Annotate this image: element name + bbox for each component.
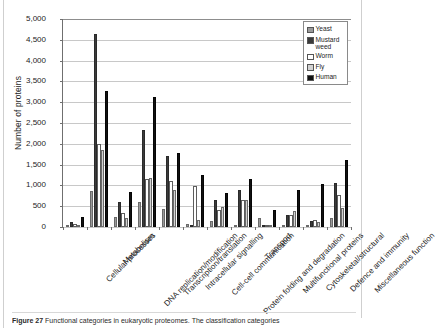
- legend-label: Fly: [316, 63, 325, 70]
- bar: [94, 34, 97, 227]
- bar: [334, 183, 337, 227]
- bar: [105, 91, 108, 227]
- bar: [273, 210, 276, 227]
- legend-swatch: [307, 54, 314, 61]
- legend-label: Mustard weed: [316, 36, 346, 50]
- bar: [286, 215, 289, 227]
- y-axis-tick-label: 1,500: [0, 160, 46, 169]
- y-axis-tick-label: 4,000: [0, 56, 46, 65]
- bar: [341, 208, 344, 227]
- bar: [306, 225, 309, 227]
- x-axis-tick-mark: [207, 227, 208, 230]
- bar: [245, 200, 248, 227]
- bar: [330, 218, 333, 227]
- x-axis-category-label: Metabolism: [121, 231, 156, 266]
- x-axis-tick-mark: [135, 227, 136, 230]
- x-axis-tick-mark: [87, 227, 88, 230]
- bar-group: [159, 19, 183, 227]
- bar: [169, 181, 172, 227]
- bar: [190, 225, 193, 227]
- x-axis-tick-mark: [231, 227, 232, 230]
- bar: [214, 200, 217, 227]
- legend-item: Worm: [307, 52, 345, 60]
- bar: [101, 150, 104, 227]
- bar: [269, 225, 272, 227]
- bar-group: [111, 19, 135, 227]
- y-axis-tick-label: 500: [0, 201, 46, 210]
- x-axis-tick-mark: [111, 227, 112, 230]
- bar: [97, 144, 100, 227]
- bar-group: [87, 19, 111, 227]
- bar: [310, 221, 313, 227]
- bar: [138, 202, 141, 227]
- legend-label: Worm: [316, 52, 333, 59]
- bar: [77, 225, 80, 227]
- bar: [289, 215, 292, 227]
- legend-item: Mustard weed: [307, 36, 345, 50]
- legend-swatch: [307, 37, 314, 44]
- bar-chart: Number of proteins 05001,0001,5002,0002,…: [0, 0, 364, 312]
- bar: [210, 221, 213, 227]
- bar: [173, 190, 176, 227]
- x-axis-tick-mark: [279, 227, 280, 230]
- x-axis-tick-mark: [303, 227, 304, 230]
- legend-swatch: [307, 64, 314, 71]
- bar: [337, 195, 340, 227]
- bar-group: [183, 19, 207, 227]
- x-axis-category-label: Transport: [263, 231, 293, 261]
- legend-item: Human: [307, 73, 345, 81]
- bar: [317, 222, 320, 227]
- bar: [142, 130, 145, 227]
- bar: [238, 190, 241, 227]
- figure-caption: Figure 27 Functional categories in eukar…: [12, 316, 356, 328]
- legend-swatch: [307, 75, 314, 82]
- bar: [114, 217, 117, 227]
- caption-label: Figure 27: [12, 317, 43, 324]
- y-axis-tick-label: 2,500: [0, 118, 46, 127]
- y-axis-tick-label: 4,500: [0, 35, 46, 44]
- bar: [129, 192, 132, 227]
- bar: [313, 220, 316, 227]
- bar-group: [255, 19, 279, 227]
- x-axis-tick-mark: [63, 227, 64, 230]
- bar: [81, 217, 84, 227]
- x-axis-tick-mark: [351, 227, 352, 230]
- bar-group: [135, 19, 159, 227]
- legend-label: Human: [316, 73, 337, 80]
- bar: [265, 225, 268, 227]
- legend-swatch: [307, 27, 314, 34]
- bar: [121, 213, 124, 227]
- y-axis-tick-label: 3,500: [0, 76, 46, 85]
- bar: [234, 225, 237, 227]
- bar: [186, 224, 189, 227]
- y-axis-tick-label: 2,000: [0, 139, 46, 148]
- bar: [201, 175, 204, 227]
- bar: [345, 160, 348, 227]
- x-axis-tick-mark: [159, 227, 160, 230]
- bar: [282, 225, 285, 227]
- bar: [66, 225, 69, 227]
- caption-text: Functional categories in eukaryotic prot…: [45, 317, 280, 324]
- bar: [221, 207, 224, 227]
- bar-group: [231, 19, 255, 227]
- bar: [197, 220, 200, 227]
- bar: [118, 202, 121, 227]
- y-axis-tick-label: 0: [0, 222, 46, 231]
- x-axis-tick-mark: [183, 227, 184, 230]
- bar: [225, 193, 228, 227]
- legend-label: Yeast: [316, 25, 332, 32]
- legend-item: Fly: [307, 63, 345, 71]
- bar: [293, 211, 296, 227]
- legend-item: Yeast: [307, 25, 345, 33]
- bar: [297, 190, 300, 227]
- chart-legend: YeastMustard weedWormFlyHuman: [303, 21, 348, 85]
- bar: [90, 191, 93, 227]
- bar: [249, 179, 252, 227]
- bar-group: [63, 19, 87, 227]
- bar: [321, 184, 324, 227]
- x-axis-tick-mark: [327, 227, 328, 230]
- bar: [145, 179, 148, 227]
- bar: [262, 225, 265, 227]
- bar: [193, 186, 196, 227]
